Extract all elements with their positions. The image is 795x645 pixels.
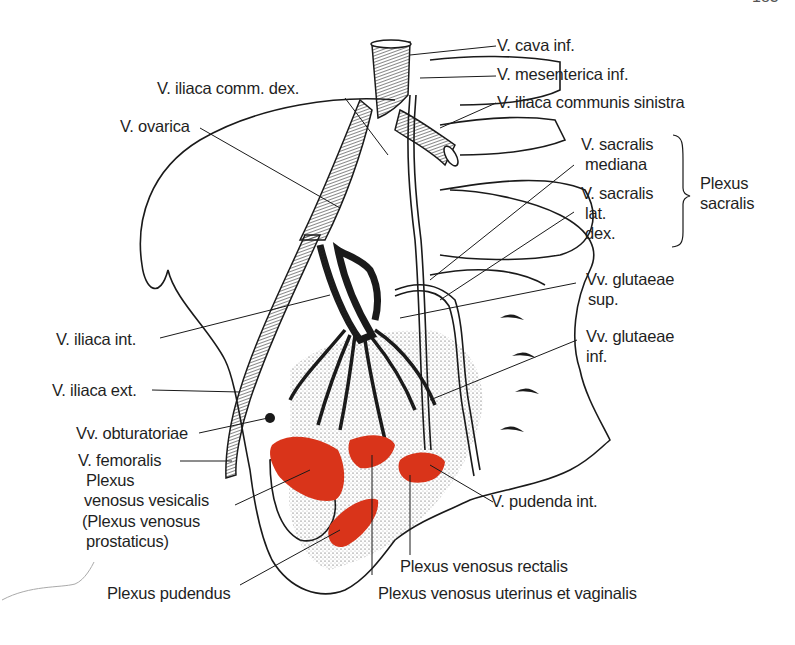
label-vv-obturatoriae: Vv. obturatoriae	[76, 424, 188, 443]
label-v-sacralis-lat-2: lat.	[585, 204, 606, 223]
vena-cava-inferior	[371, 40, 411, 118]
label-plexus-sacralis-2: sacralis	[700, 194, 754, 213]
label-plexus-pudendus: Plexus pudendus	[107, 584, 231, 603]
label-v-pudenda-int: V. pudenda int.	[491, 492, 598, 511]
label-v-sacralis-mediana-1: V. sacralis	[581, 135, 653, 154]
label-vv-glutaeae-inf-2: inf.	[586, 347, 607, 366]
label-plexus-vesicalis-1: Plexus	[86, 471, 134, 490]
label-v-ovarica: V. ovarica	[120, 117, 190, 136]
label-v-femoralis: V. femoralis	[78, 451, 161, 470]
label-v-iliaca-int: V. iliaca int.	[56, 330, 136, 349]
label-v-iliaca-ext: V. iliaca ext.	[52, 381, 137, 400]
v-iliaca-communis-dextra	[300, 100, 372, 240]
label-v-iliaca-communis-sinistra: V. iliaca communis sinistra	[497, 93, 684, 112]
label-v-sacralis-lat-3: dex.	[585, 224, 615, 243]
label-v-mesenterica-inf: V. mesenterica inf.	[497, 65, 628, 84]
label-plexus-uterinus-vaginalis: Plexus venosus uterinus et vaginalis	[378, 584, 637, 603]
label-plexus-venosus-rectalis: Plexus venosus rectalis	[400, 557, 568, 576]
label-v-sacralis-mediana-2: mediana	[585, 155, 647, 174]
label-plexus-vesicalis-4: prostaticus)	[86, 532, 169, 551]
label-plexus-sacralis-1: Plexus	[700, 174, 748, 193]
label-plexus-vesicalis-3: (Plexus venosus	[82, 512, 200, 531]
label-vv-glutaeae-sup-2: sup.	[588, 290, 618, 309]
label-vv-glutaeae-inf-1: Vv. glutaeae	[586, 327, 674, 346]
label-v-cava-inf: V. cava inf.	[497, 36, 575, 55]
label-plexus-vesicalis-2: venosus vesicalis	[84, 491, 209, 510]
plexus-sacralis-brace	[672, 135, 690, 247]
label-vv-glutaeae-sup-1: Vv. glutaeae	[586, 270, 674, 289]
label-v-sacralis-lat-1: V. sacralis	[581, 184, 653, 203]
label-v-iliaca-comm-dex: V. iliaca comm. dex.	[157, 79, 299, 98]
sacral-foramina	[500, 314, 539, 432]
decorative-stroke	[2, 562, 94, 600]
